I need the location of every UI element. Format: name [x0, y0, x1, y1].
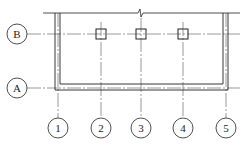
axis-label-3: 3: [138, 122, 144, 134]
axis-label-B: B: [13, 28, 20, 40]
axis-label-5: 5: [223, 122, 229, 134]
axis-label-2: 2: [98, 122, 104, 134]
grid-plan-diagram: B A 1 2 3 4 5: [0, 0, 243, 151]
axis-label-4: 4: [180, 122, 186, 134]
axis-label-1: 1: [55, 122, 61, 134]
wall-outer: [55, 13, 228, 90]
axis-label-A: A: [13, 82, 21, 94]
break-line: [43, 9, 240, 17]
wall-inner: [60, 13, 223, 84]
